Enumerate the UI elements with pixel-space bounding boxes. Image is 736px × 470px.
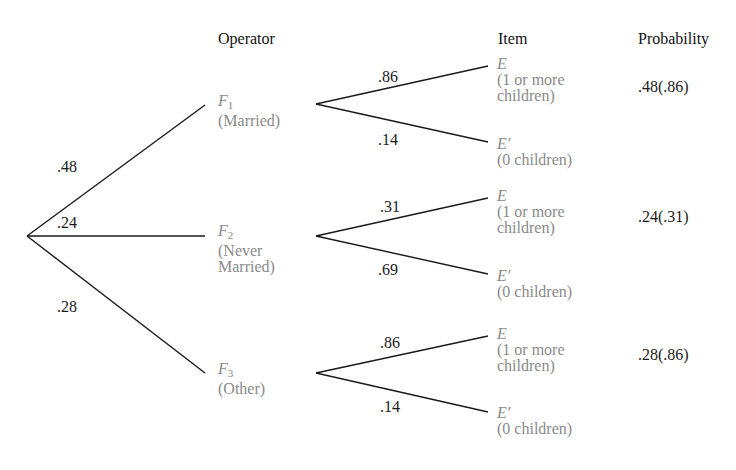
operator-desc-f3: (Other) <box>218 381 265 397</box>
f2-e-label: .31 <box>380 198 400 215</box>
operator-desc-f2-line2: Married) <box>218 259 275 275</box>
f2-branch-eprime <box>316 236 488 274</box>
root-label-f3: .28 <box>57 298 77 315</box>
f1-eprime-label: .14 <box>378 131 398 148</box>
f1-item-e: E (1 or more children) <box>497 56 565 104</box>
operator-symbol-f3: F3 <box>218 361 265 381</box>
operator-symbol-f1: F1 <box>218 93 280 113</box>
f3-branch-e <box>316 336 488 373</box>
f2-branch-e <box>316 198 488 236</box>
root-label-f2: .24 <box>57 214 77 231</box>
probability-tree-diagram: Operator Item Probability .48 .24 .28 F1… <box>0 0 736 470</box>
header-operator: Operator <box>218 30 275 47</box>
f1-item-eprime: E′ (0 children) <box>497 136 572 168</box>
operator-desc-f2-line1: (Never <box>218 243 275 259</box>
root-branch-f3 <box>27 236 205 373</box>
f3-item-e: E (1 or more children) <box>497 326 565 374</box>
f3-probability: .28(.86) <box>638 346 689 363</box>
f1-branch-e <box>316 66 488 104</box>
f3-branch-eprime <box>316 373 488 412</box>
f2-probability: .24(.31) <box>638 208 689 225</box>
operator-node-f3: F3 (Other) <box>218 361 265 397</box>
f2-item-e: E (1 or more children) <box>497 188 565 236</box>
operator-node-f2: F2 (Never Married) <box>218 223 275 275</box>
header-probability: Probability <box>638 30 709 47</box>
f3-item-eprime: E′ (0 children) <box>497 405 572 437</box>
f1-probability: .48(.86) <box>638 78 689 95</box>
f1-e-label: .86 <box>378 68 398 85</box>
f3-eprime-label: .14 <box>380 398 400 415</box>
f1-branch-eprime <box>316 104 488 142</box>
f2-eprime-label: .69 <box>378 261 398 278</box>
root-branch-f1 <box>27 105 205 236</box>
header-item: Item <box>498 30 527 47</box>
f2-item-eprime: E′ (0 children) <box>497 268 572 300</box>
operator-node-f1: F1 (Married) <box>218 93 280 129</box>
root-label-f1: .48 <box>57 158 77 175</box>
tree-lines <box>0 0 736 470</box>
operator-desc-f1: (Married) <box>218 113 280 129</box>
operator-symbol-f2: F2 <box>218 223 275 243</box>
f3-e-label: .86 <box>380 334 400 351</box>
